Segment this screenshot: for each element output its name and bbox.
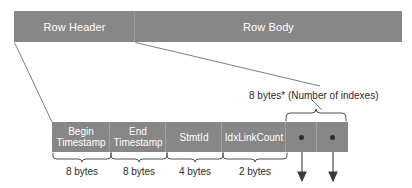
byte-braces [53, 153, 287, 162]
row-header-segment: Row Header [14, 11, 135, 42]
field-cell-end-timestamp: End Timestamp [110, 122, 166, 152]
index-size-note: 8 bytes* (Number of indexes) [249, 90, 379, 101]
field-cell-index-link-2 [317, 122, 348, 152]
brace-begin-timestamp [53, 153, 111, 162]
field-label-begin-timestamp-line2: Timestamp [56, 137, 105, 148]
row-body-label: Row Body [243, 21, 294, 33]
field-label-end-timestamp-line2: Timestamp [113, 137, 162, 148]
row-layout-diagram: Row Header Row Body 8 bytes* (Number of … [0, 0, 412, 188]
brace-end-timestamp [111, 153, 167, 162]
index-pointer-arrow-2-head [329, 172, 337, 181]
field-cell-idxlinkcount: IdxLinkCount [222, 122, 286, 152]
field-cell-index-link-1 [286, 122, 317, 152]
index-pointer-arrows [298, 152, 337, 181]
expansion-line-right [136, 43, 321, 87]
field-label-stmtid: StmtId [180, 132, 209, 143]
byte-size-stmtid: 4 bytes [167, 166, 223, 177]
expansion-line-left [15, 43, 53, 123]
field-label-end-timestamp-line1: End [129, 126, 147, 137]
byte-size-end-timestamp: 8 bytes [111, 166, 167, 177]
brace-stmtid [167, 153, 223, 162]
field-label-idxlinkcount: IdxLinkCount [225, 132, 283, 143]
row-body-segment: Row Body [135, 11, 402, 42]
field-label-begin-timestamp-line1: Begin [68, 126, 94, 137]
brace-index-links [286, 109, 346, 121]
row-bar: Row Header Row Body [14, 11, 402, 42]
index-pointer-arrow-1-head [298, 172, 306, 181]
field-cell-stmtid: StmtId [166, 122, 222, 152]
row-header-field-bar: Begin Timestamp End Timestamp StmtId Idx… [52, 122, 348, 152]
row-header-label: Row Header [43, 21, 105, 33]
index-link-dot-icon [299, 135, 304, 140]
byte-size-begin-timestamp: 8 bytes [53, 166, 111, 177]
byte-size-idxlinkcount: 2 bytes [223, 166, 287, 177]
index-link-dot-icon [330, 135, 335, 140]
brace-idxlinkcount [223, 153, 287, 162]
field-cell-begin-timestamp: Begin Timestamp [52, 122, 110, 152]
